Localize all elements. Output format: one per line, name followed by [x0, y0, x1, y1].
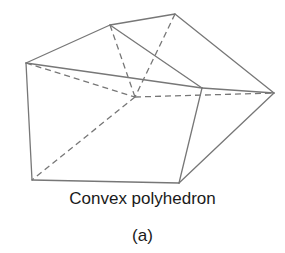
edge-AG — [26, 63, 32, 180]
convex-polyhedron-diagram — [0, 0, 285, 253]
visible-edges — [26, 14, 274, 183]
figure-sublabel: (a) — [0, 226, 285, 246]
hidden-edge-FG — [32, 97, 135, 180]
edge-AB — [26, 25, 110, 63]
edge-GH — [32, 180, 179, 183]
figure-caption: Convex polyhedron — [0, 189, 285, 209]
hidden-edges — [26, 14, 274, 180]
hidden-edge-AF — [26, 63, 135, 97]
hidden-edge-FE — [135, 93, 274, 97]
edge-DH — [179, 88, 202, 183]
edge-BD — [110, 25, 202, 88]
edge-DE — [202, 88, 274, 93]
edge-BC — [110, 14, 175, 25]
edge-CE — [175, 14, 274, 93]
edge-HE — [179, 93, 274, 183]
hidden-edge-BF — [110, 25, 135, 97]
edge-AD — [26, 63, 202, 88]
